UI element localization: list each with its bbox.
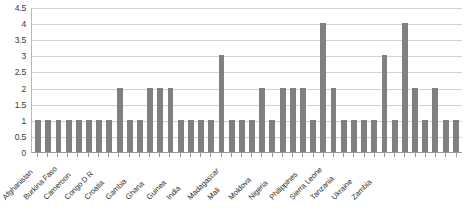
bar-slot [237,8,247,152]
y-axis-tick-label: 0.5 [15,133,26,141]
y-axis: 00.511.522.533.544.5 [0,8,28,153]
bar-slot [441,8,451,152]
bar-slot [196,8,206,152]
bar [422,120,428,152]
bar [443,120,449,152]
bar-slot [125,8,135,152]
bar-slot [104,8,114,152]
bar [157,88,163,152]
bar [280,88,286,152]
bar-slot [420,8,430,152]
bar [66,120,72,152]
bar-slot [318,8,328,152]
bar [432,88,438,152]
bar-slot [227,8,237,152]
bar [127,120,133,152]
bar [56,120,62,152]
x-axis-label: Guinea [144,178,167,201]
bar-slot [135,8,145,152]
bar [290,88,296,152]
bar-slot [84,8,94,152]
bar [341,120,347,152]
y-axis-tick-label: 1.5 [15,101,26,109]
bar-slot [33,8,43,152]
bar-slot [206,8,216,152]
bar-slot [390,8,400,152]
bar-slot [359,8,369,152]
bar [178,120,184,152]
bar [331,88,337,152]
bar [45,120,51,152]
bar [168,88,174,152]
x-axis-label: India [165,184,183,202]
bar [392,120,398,152]
bar [300,88,306,152]
bar [35,120,41,152]
bar [188,120,194,152]
bar-slot [165,8,175,152]
bar [361,120,367,152]
bar [269,120,275,152]
plot-area [31,8,462,153]
bar-slot [216,8,226,152]
bar-slot [43,8,53,152]
bar [239,120,245,152]
bar-slot [298,8,308,152]
bar-slot [288,8,298,152]
bar-slot [308,8,318,152]
bar-slot [74,8,84,152]
bar [229,120,235,152]
bar [117,88,123,152]
bar-slot [53,8,63,152]
bar [96,120,102,152]
bar-slot [115,8,125,152]
bar-slot [369,8,379,152]
bar [382,55,388,152]
bar-slot [451,8,461,152]
bar [208,120,214,152]
bar-slot [410,8,420,152]
y-axis-tick-label: 1 [21,117,26,125]
bar [412,88,418,152]
bar-slot [94,8,104,152]
bar [320,23,326,152]
bar [371,120,377,152]
y-axis-tick-label: 3 [21,52,26,60]
bar [310,120,316,152]
bar [351,120,357,152]
y-axis-tick-label: 0 [21,149,26,157]
bar-slot [278,8,288,152]
bar-slot [267,8,277,152]
bar-slot [379,8,389,152]
bar-series [32,8,462,152]
bar-chart: 00.511.522.533.544.5 AfghanistanBurkina … [0,0,469,213]
x-axis: AfghanistanBurkina FasoCameroonCongo D R… [31,157,462,213]
bar-slot [400,8,410,152]
bar-slot [339,8,349,152]
x-axis-label: Zambia [350,178,374,202]
y-axis-tick-label: 2.5 [15,68,26,76]
bar-slot [328,8,338,152]
y-axis-tick-label: 2 [21,85,26,93]
bar-slot [155,8,165,152]
y-axis-tick-label: 4.5 [15,4,26,12]
bar [219,55,225,152]
bar [249,120,255,152]
bar [198,120,204,152]
bar [76,120,82,152]
bar [402,23,408,152]
bar-slot [186,8,196,152]
x-axis-label: Gambia [103,177,128,202]
bar-slot [64,8,74,152]
bar-slot [247,8,257,152]
x-axis-label: Mali [206,186,222,202]
y-axis-tick-label: 4 [21,20,26,28]
bar-slot [176,8,186,152]
bar-slot [430,8,440,152]
bar [147,88,153,152]
bar-slot [257,8,267,152]
bar-slot [145,8,155,152]
bar [453,120,459,152]
bar [106,120,112,152]
bar [86,120,92,152]
